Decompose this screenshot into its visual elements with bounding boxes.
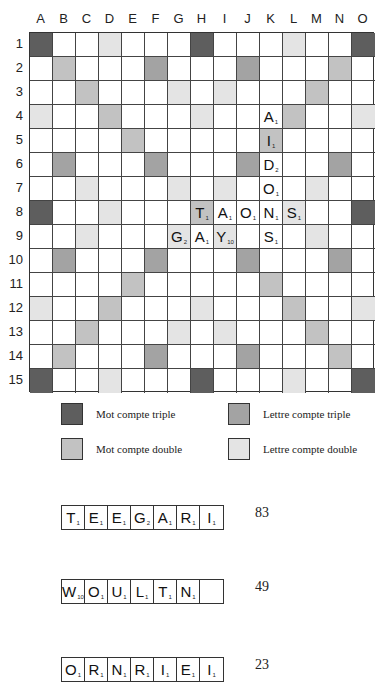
board-cell-i10[interactable] — [214, 249, 237, 273]
board-cell-l3[interactable] — [283, 81, 306, 105]
board-cell-e12[interactable] — [122, 297, 145, 321]
board-cell-n8[interactable] — [329, 201, 352, 225]
rack-tile[interactable]: O1 — [85, 580, 108, 603]
board-cell-f7[interactable] — [145, 177, 168, 201]
board-cell-n11[interactable] — [329, 273, 352, 297]
board-cell-n14[interactable] — [329, 345, 352, 369]
board-cell-a14[interactable] — [30, 345, 53, 369]
board-cell-g2[interactable] — [168, 57, 191, 81]
board-cell-c14[interactable] — [76, 345, 99, 369]
board-cell-n6[interactable] — [329, 153, 352, 177]
board-cell-j8[interactable]: O1 — [237, 201, 260, 225]
board-cell-f4[interactable] — [145, 105, 168, 129]
board-cell-n4[interactable] — [329, 105, 352, 129]
board-cell-h2[interactable] — [191, 57, 214, 81]
board-cell-j13[interactable] — [237, 321, 260, 345]
board-cell-m10[interactable] — [306, 249, 329, 273]
board-cell-n13[interactable] — [329, 321, 352, 345]
board-cell-j2[interactable] — [237, 57, 260, 81]
board-cell-d7[interactable] — [99, 177, 122, 201]
board-cell-a15[interactable] — [30, 369, 53, 393]
board-cell-o1[interactable] — [352, 33, 375, 57]
board-cell-j4[interactable] — [237, 105, 260, 129]
board-cell-a13[interactable] — [30, 321, 53, 345]
board-cell-k4[interactable]: A1 — [260, 105, 283, 129]
board-cell-e9[interactable] — [122, 225, 145, 249]
board-cell-j9[interactable] — [237, 225, 260, 249]
board-cell-a9[interactable] — [30, 225, 53, 249]
board-cell-j7[interactable] — [237, 177, 260, 201]
board-cell-a2[interactable] — [30, 57, 53, 81]
board-cell-n3[interactable] — [329, 81, 352, 105]
board-cell-c11[interactable] — [76, 273, 99, 297]
board-cell-g3[interactable] — [168, 81, 191, 105]
board-cell-c13[interactable] — [76, 321, 99, 345]
board-cell-l11[interactable] — [283, 273, 306, 297]
board-cell-b14[interactable] — [53, 345, 76, 369]
board-cell-k9[interactable]: S1 — [260, 225, 283, 249]
board-cell-i13[interactable] — [214, 321, 237, 345]
board-cell-g4[interactable] — [168, 105, 191, 129]
board-cell-j14[interactable] — [237, 345, 260, 369]
board-cell-m4[interactable] — [306, 105, 329, 129]
rack-tile[interactable]: E1 — [177, 658, 200, 681]
board-cell-f15[interactable] — [145, 369, 168, 393]
board-cell-l10[interactable] — [283, 249, 306, 273]
board-cell-d4[interactable] — [99, 105, 122, 129]
board-cell-d12[interactable] — [99, 297, 122, 321]
board-cell-e1[interactable] — [122, 33, 145, 57]
board-cell-n7[interactable] — [329, 177, 352, 201]
board-cell-m12[interactable] — [306, 297, 329, 321]
rack-tile[interactable]: A1 — [154, 506, 177, 529]
board-cell-h5[interactable] — [191, 129, 214, 153]
board-cell-m7[interactable] — [306, 177, 329, 201]
board-cell-k5[interactable]: I1 — [260, 129, 283, 153]
board-cell-k7[interactable]: O1 — [260, 177, 283, 201]
board-cell-b11[interactable] — [53, 273, 76, 297]
board-cell-i1[interactable] — [214, 33, 237, 57]
rack-tile[interactable]: W10 — [62, 580, 85, 603]
board-cell-f2[interactable] — [145, 57, 168, 81]
rack-tile[interactable]: R1 — [131, 658, 154, 681]
board-cell-c15[interactable] — [76, 369, 99, 393]
board-cell-i3[interactable] — [214, 81, 237, 105]
board-cell-k11[interactable] — [260, 273, 283, 297]
board-cell-g1[interactable] — [168, 33, 191, 57]
board-cell-m15[interactable] — [306, 369, 329, 393]
board-cell-c2[interactable] — [76, 57, 99, 81]
board-cell-k3[interactable] — [260, 81, 283, 105]
board-cell-d5[interactable] — [99, 129, 122, 153]
board-cell-i14[interactable] — [214, 345, 237, 369]
board-cell-d3[interactable] — [99, 81, 122, 105]
rack-tile[interactable]: R1 — [177, 506, 200, 529]
board-cell-o7[interactable] — [352, 177, 375, 201]
board-cell-h12[interactable] — [191, 297, 214, 321]
board-cell-g5[interactable] — [168, 129, 191, 153]
board-cell-k15[interactable] — [260, 369, 283, 393]
board-cell-d1[interactable] — [99, 33, 122, 57]
board-cell-h4[interactable] — [191, 105, 214, 129]
board-cell-k10[interactable] — [260, 249, 283, 273]
rack-tile[interactable]: E1 — [108, 506, 131, 529]
board-cell-n5[interactable] — [329, 129, 352, 153]
board-cell-k12[interactable] — [260, 297, 283, 321]
board-cell-o10[interactable] — [352, 249, 375, 273]
board-cell-i15[interactable] — [214, 369, 237, 393]
board-cell-o15[interactable] — [352, 369, 375, 393]
board-cell-o13[interactable] — [352, 321, 375, 345]
rack-tile[interactable]: E1 — [85, 506, 108, 529]
board-cell-i11[interactable] — [214, 273, 237, 297]
board-cell-n15[interactable] — [329, 369, 352, 393]
board-cell-d10[interactable] — [99, 249, 122, 273]
board-cell-i7[interactable] — [214, 177, 237, 201]
board-cell-h6[interactable] — [191, 153, 214, 177]
board-cell-k8[interactable]: N1 — [260, 201, 283, 225]
board-cell-l13[interactable] — [283, 321, 306, 345]
board-cell-j5[interactable] — [237, 129, 260, 153]
board-cell-h8[interactable]: T1 — [191, 201, 214, 225]
board-cell-m9[interactable] — [306, 225, 329, 249]
board-cell-o4[interactable] — [352, 105, 375, 129]
board-cell-d2[interactable] — [99, 57, 122, 81]
board-cell-e15[interactable] — [122, 369, 145, 393]
board-cell-b8[interactable] — [53, 201, 76, 225]
